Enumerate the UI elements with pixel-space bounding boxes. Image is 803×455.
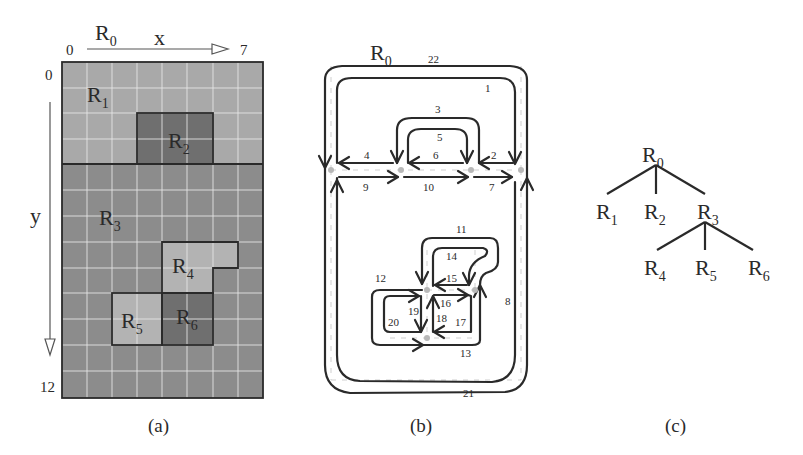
tree-node-r6: R6 xyxy=(748,255,770,284)
vertex-6 xyxy=(472,287,478,293)
tree-node-r5: R5 xyxy=(695,255,717,284)
edge-labels: 1 2 3 4 5 6 7 8 9 10 11 12 13 14 15 16 1… xyxy=(363,53,511,399)
figure-canvas: R1 R2 R3 R4 R5 R6 R0 0 x 7 0 y 12 (a) R0 xyxy=(0,0,803,455)
edge-label-1: 1 xyxy=(485,82,491,94)
x-axis-end: 7 xyxy=(240,42,248,58)
tree-node-r2: R2 xyxy=(644,199,666,228)
tree-node-r3: R3 xyxy=(697,199,719,228)
vertex-7 xyxy=(424,335,430,341)
vertex-3 xyxy=(468,167,474,173)
edge-label-22: 22 xyxy=(428,53,439,65)
edge-label-20: 20 xyxy=(388,316,400,328)
panel-b-caption: (b) xyxy=(410,415,432,437)
edge-label-7: 7 xyxy=(489,181,495,193)
edge-label-18: 18 xyxy=(436,312,448,324)
tree-node-r4: R4 xyxy=(644,255,666,284)
tree-edge-r0-r1 xyxy=(607,165,656,194)
tree-node-r0: R0 xyxy=(642,142,664,171)
edge-label-11: 11 xyxy=(456,223,467,235)
y-axis-end: 12 xyxy=(40,379,55,395)
y-axis-label: y xyxy=(30,203,41,228)
panel-b-half-edge-graph: R0 xyxy=(319,40,533,437)
panel-a-root-label: R0 xyxy=(95,20,117,49)
edge-label-10: 10 xyxy=(423,181,435,193)
y-axis-start: 0 xyxy=(45,67,53,83)
edge-label-21: 21 xyxy=(463,387,474,399)
edge-label-12: 12 xyxy=(375,272,386,284)
panel-c-region-tree: R0 R1 R2 R3 R4 R5 R6 (c) xyxy=(596,142,770,437)
panel-c-caption: (c) xyxy=(665,415,686,437)
edge-label-17: 17 xyxy=(455,316,467,328)
edge-label-6: 6 xyxy=(433,149,439,161)
panel-a-region-grid: R1 R2 R3 R4 R5 R6 xyxy=(62,62,263,398)
vertex-4 xyxy=(518,167,524,173)
boundary-guides xyxy=(331,66,521,380)
edge-8-bottom-loop xyxy=(337,178,515,382)
tree-node-r1: R1 xyxy=(596,199,618,228)
edge-label-5: 5 xyxy=(437,131,443,143)
edge-label-15: 15 xyxy=(446,272,458,284)
edge-label-9: 9 xyxy=(363,181,369,193)
edge-label-4: 4 xyxy=(364,149,370,161)
vertex-5 xyxy=(424,287,430,293)
vertex-1 xyxy=(328,167,334,173)
edge-label-13: 13 xyxy=(460,347,472,359)
edge-label-16: 16 xyxy=(440,297,452,309)
vertex-2 xyxy=(398,167,404,173)
edge-11-13-12-loop xyxy=(372,238,498,345)
x-axis-start: 0 xyxy=(66,42,74,58)
panel-b-root-label: R0 xyxy=(370,40,392,69)
edge-label-3: 3 xyxy=(435,103,441,115)
edge-label-19: 19 xyxy=(408,305,420,317)
x-axis-arrow-icon xyxy=(212,44,228,54)
edge-label-2: 2 xyxy=(491,149,497,161)
edge-label-14: 14 xyxy=(446,250,458,262)
y-axis-arrow-icon xyxy=(45,339,55,355)
x-axis-label: x xyxy=(154,25,165,50)
panel-a-caption: (a) xyxy=(148,415,169,437)
edge-label-8: 8 xyxy=(505,295,511,307)
